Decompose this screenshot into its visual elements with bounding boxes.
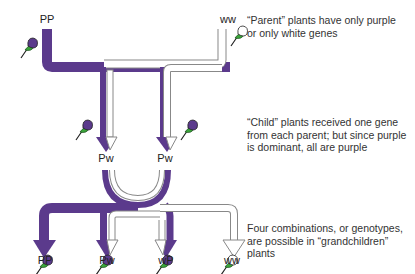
to-child-right (156, 67, 222, 152)
flower-icon-child-left (76, 120, 93, 140)
child-crossing-loop (105, 170, 168, 205)
child-genotype-right: Pw (150, 152, 180, 164)
flower-icon-parent-ww (231, 26, 248, 46)
flower-icon-child-right (181, 120, 198, 140)
grandchild-genotype-3: wP (151, 254, 181, 266)
grandchild-genotype-2: Pw (92, 254, 122, 266)
grandchildren-caption: Four combinations, or genotypes, are pos… (247, 222, 403, 260)
grandchild-genotype-4: ww (217, 254, 247, 266)
parents-caption: “Parent” plants have only purple or only… (247, 14, 396, 39)
flower-icon-parent-pp (21, 38, 38, 58)
parent-genotype-left: PP (32, 13, 62, 25)
to-child-left (96, 67, 117, 152)
parent-genotype-right: ww (213, 13, 243, 25)
grandchild-genotype-1: PP (30, 254, 60, 266)
grandchild-paths (33, 205, 245, 258)
parent-ww-gene-path (104, 29, 222, 64)
children-caption: “Child” plants received one gene from ea… (247, 116, 406, 154)
child-genotype-left: Pw (91, 152, 121, 164)
